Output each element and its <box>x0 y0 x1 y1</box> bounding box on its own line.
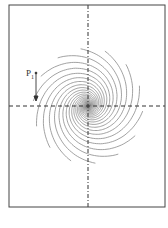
point-label: P1 <box>26 69 34 80</box>
spiral-curve <box>37 73 107 126</box>
label-subscript: 1 <box>31 74 34 80</box>
spiral-curve <box>69 86 139 139</box>
vortex-diagram <box>0 0 168 228</box>
down-arrow-icon <box>34 72 38 101</box>
